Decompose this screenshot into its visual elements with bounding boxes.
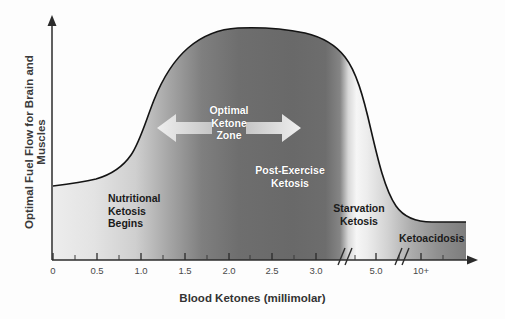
- annotation-line: Ketosis: [108, 205, 161, 218]
- annotation-starvation-ketosis: Starvation Ketosis: [324, 202, 394, 227]
- x-tick-label-0_5: 0.5: [90, 265, 103, 276]
- annotation-ketoacidosis: Ketoacidosis: [399, 232, 464, 245]
- x-tick-label-2_5: 2.5: [265, 265, 278, 276]
- y-axis-title: Optimal Fuel Flow for Brain and Muscles: [23, 37, 47, 247]
- annotation-nutritional-ketosis-begins: Nutritional Ketosis Begins: [108, 192, 161, 230]
- annotation-line: Starvation: [324, 202, 394, 215]
- x-tick-label-1_0: 1.0: [134, 265, 147, 276]
- x-tick-label-1_5: 1.5: [178, 265, 191, 276]
- annotation-post-exercise-ketosis: Post-Exercise Ketosis: [252, 164, 328, 189]
- annotation-line: Zone: [196, 129, 262, 142]
- x-tick-label-10plus: 10+: [413, 265, 429, 276]
- annotation-optimal-ketone-zone: Optimal Ketone Zone: [196, 104, 262, 142]
- ketone-response-chart: [0, 0, 505, 319]
- x-tick-label-0: 0: [50, 265, 55, 276]
- x-tick-label-5_0: 5.0: [369, 265, 382, 276]
- chart-figure: Optimal Fuel Flow for Brain and Muscles …: [0, 0, 505, 319]
- x-tick-label-3_0: 3.0: [309, 265, 322, 276]
- annotation-line: Ketone: [196, 117, 262, 130]
- annotation-line: Nutritional: [108, 192, 161, 205]
- annotation-line: Optimal: [196, 104, 262, 117]
- y-axis-arrowhead: [48, 15, 57, 26]
- annotation-line: Ketosis: [324, 215, 394, 228]
- annotation-line: Post-Exercise: [252, 164, 328, 177]
- annotation-line: Ketoacidosis: [399, 232, 464, 245]
- x-axis-arrowhead: [467, 256, 478, 265]
- annotation-line: Begins: [108, 217, 161, 230]
- x-tick-label-2_0: 2.0: [222, 265, 235, 276]
- annotation-line: Ketosis: [252, 177, 328, 190]
- x-axis-title: Blood Ketones (millimolar): [0, 292, 505, 304]
